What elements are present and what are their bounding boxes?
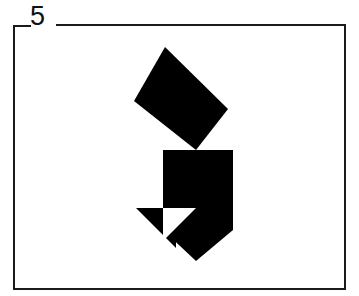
tangram-piece-upper-right-square	[196, 150, 233, 186]
tangram-piece-large-rotated-rectangle	[134, 47, 228, 150]
figure-panel: 5	[0, 0, 359, 296]
tangram-figure	[0, 0, 359, 296]
